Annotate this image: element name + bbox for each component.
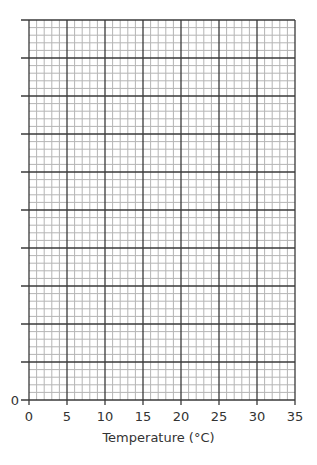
x-tick-label: 30 [249, 409, 266, 424]
x-tick-label: 35 [287, 409, 304, 424]
graph-paper-chart: 051015202530350 [0, 0, 317, 465]
y-tick-label: 0 [11, 393, 19, 408]
x-tick-label: 5 [63, 409, 71, 424]
x-tick-label: 10 [97, 409, 114, 424]
x-tick-label: 0 [25, 409, 33, 424]
x-tick-label: 15 [135, 409, 152, 424]
x-tick-label: 20 [173, 409, 190, 424]
x-axis-label: Temperature (°C) [0, 430, 317, 445]
x-tick-label: 25 [211, 409, 228, 424]
